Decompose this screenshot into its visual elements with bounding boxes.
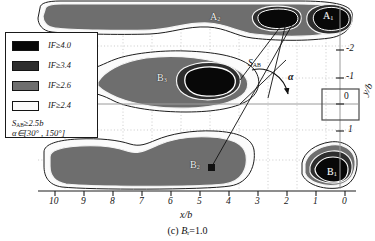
x-tick-label-2: 2 — [284, 197, 289, 207]
region-label-a1: A1 — [323, 11, 333, 22]
contour-level-4-0-middle — [185, 67, 236, 96]
region-label-b2: B2 — [190, 160, 200, 171]
x-tick-label-5: 5 — [197, 197, 202, 207]
y-tick-label-neg1: -1 — [346, 72, 354, 82]
legend-row-4: IF≥2.4 — [12, 100, 71, 111]
x-tick-label-1: 1 — [313, 197, 318, 207]
legend-label-3: IF≥2.6 — [48, 81, 71, 90]
x-tick-label-7: 7 — [139, 197, 144, 207]
legend-condition-alpha: α∈[30° , 150°] — [12, 128, 65, 138]
region-label-b3: B3 — [157, 73, 167, 84]
annotation-alpha: α — [288, 72, 294, 82]
region-label-b1: B1 — [327, 167, 337, 178]
x-tick-label-4: 4 — [226, 197, 231, 207]
swatch-if-4-0 — [12, 41, 39, 51]
swatch-if-3-4 — [12, 61, 39, 71]
legend-box: IF≥4.0 IF≥3.4 IF≥2.6 IF≥2.4 SAB≥2.5b α∈[… — [5, 32, 98, 138]
x-tick-label-10: 10 — [49, 197, 59, 207]
legend-row-1: IF≥4.0 — [12, 40, 71, 51]
sab-marker-square — [208, 164, 215, 171]
y-tick-label-neg2: -2 — [346, 44, 354, 54]
legend-condition-sab: SAB≥2.5b — [12, 118, 43, 128]
legend-row-2: IF≥3.4 — [12, 60, 71, 71]
footing-origin-value: 0 — [344, 92, 349, 102]
x-tick-label-8: 8 — [110, 197, 115, 207]
figure-contour-plot: IF≥4.0 IF≥3.4 IF≥2.6 IF≥2.4 SAB≥2.5b α∈[… — [0, 0, 375, 241]
contour-band-bottom — [44, 131, 254, 189]
legend-row-3: IF≥2.6 — [12, 80, 71, 91]
x-axis-title: x/b — [180, 210, 192, 220]
x-tick-label-6: 6 — [168, 197, 173, 207]
figure-caption: (c) Br=1.0 — [0, 225, 375, 236]
legend-label-4: IF≥2.4 — [48, 101, 71, 110]
legend-label-1: IF≥4.0 — [48, 41, 71, 50]
swatch-if-2-4 — [12, 101, 39, 111]
x-tick-label-3: 3 — [255, 197, 260, 207]
y-tick-label-1: 1 — [348, 125, 353, 135]
annotation-sab: SAB — [248, 59, 261, 69]
swatch-if-2-6 — [12, 81, 39, 91]
legend-label-2: IF≥3.4 — [48, 61, 71, 70]
x-tick-label-0: 0 — [342, 197, 347, 207]
x-tick-label-9: 9 — [81, 197, 86, 207]
region-label-a2: A2 — [210, 12, 220, 23]
